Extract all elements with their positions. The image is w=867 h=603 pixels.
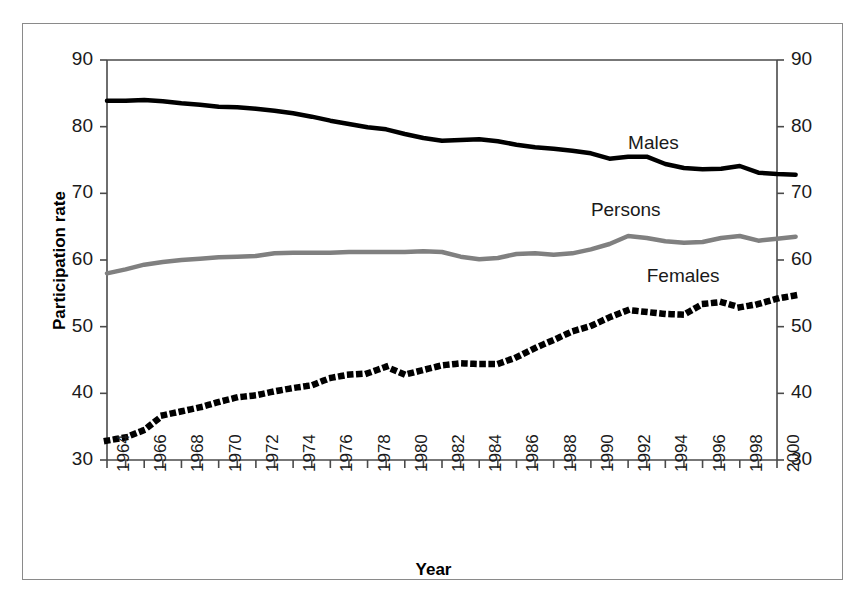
y-tick-label-right-50: 50: [791, 315, 833, 337]
x-tick-label-1984: 1984: [486, 434, 506, 472]
x-tick-label-1996: 1996: [710, 434, 730, 472]
x-tick-label-1976: 1976: [337, 434, 357, 472]
x-tick-label-1964: 1964: [114, 434, 134, 472]
x-tick-label-1972: 1972: [263, 434, 283, 472]
x-tick-label-1980: 1980: [412, 434, 432, 472]
series-line-males: [107, 100, 796, 175]
chart-canvas: [0, 0, 867, 603]
series-label-persons: Persons: [591, 199, 661, 221]
y-tick-label-left-90: 90: [51, 48, 93, 70]
y-tick-label-left-80: 80: [51, 115, 93, 137]
x-tick-label-1974: 1974: [300, 434, 320, 472]
x-tick-label-1982: 1982: [449, 434, 469, 472]
x-tick-label-1988: 1988: [561, 434, 581, 472]
y-tick-label-left-30: 30: [51, 448, 93, 470]
y-tick-label-left-60: 60: [51, 248, 93, 270]
y-tick-label-right-40: 40: [791, 381, 833, 403]
y-tick-label-left-50: 50: [51, 315, 93, 337]
x-tick-label-1978: 1978: [375, 434, 395, 472]
y-tick-label-left-40: 40: [51, 381, 93, 403]
x-tick-label-2000: 2000: [784, 434, 804, 472]
x-tick-label-1998: 1998: [747, 434, 767, 472]
x-tick-label-1968: 1968: [188, 434, 208, 472]
x-tick-label-1970: 1970: [226, 434, 246, 472]
y-tick-label-right-90: 90: [791, 48, 833, 70]
x-tick-label-1986: 1986: [523, 434, 543, 472]
y-tick-label-right-60: 60: [791, 248, 833, 270]
x-tick-label-1994: 1994: [672, 434, 692, 472]
x-tick-label-1990: 1990: [598, 434, 618, 472]
series-label-females: Females: [647, 265, 720, 287]
x-tick-label-1966: 1966: [151, 434, 171, 472]
y-tick-label-right-80: 80: [791, 115, 833, 137]
x-axis-title: Year: [0, 560, 867, 580]
y-tick-label-right-70: 70: [791, 181, 833, 203]
x-tick-label-1992: 1992: [635, 434, 655, 472]
series-label-males: Males: [628, 132, 679, 154]
series-line-females: [107, 295, 796, 440]
y-tick-label-left-70: 70: [51, 181, 93, 203]
participation-rate-chart: Participation rate Year 30405060708090 3…: [0, 0, 867, 603]
